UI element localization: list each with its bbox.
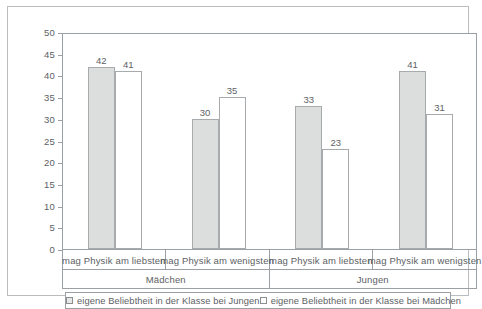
bar-value-label-series0-cat2: 33 <box>289 95 328 105</box>
y-tick-label-5: 5 <box>50 223 55 233</box>
y-tick-label-50: 50 <box>44 28 55 38</box>
y-axis: 05101520253035404550 <box>22 33 62 251</box>
y-tick-label-10: 10 <box>44 202 55 212</box>
category-axis: mag Physik am liebstenmag Physik am weni… <box>62 250 477 270</box>
bar-series0-cat1 <box>192 119 219 249</box>
chart-legend: eigene Beliebtheit in der Klasse bei Jun… <box>65 292 451 309</box>
y-tick-label-40: 40 <box>44 71 55 81</box>
bar-value-label-series0-cat3: 41 <box>393 60 432 70</box>
bar-series0-cat2 <box>295 106 322 249</box>
legend-item-0: eigene Beliebtheit in der Klasse bei Jun… <box>66 296 260 306</box>
category-label-1: mag Physik am wenigsten <box>166 250 270 270</box>
y-tick-label-35: 35 <box>44 93 55 103</box>
y-tick-label-0: 0 <box>50 245 55 255</box>
plot-inner: 4241303533234131 <box>63 34 476 249</box>
plot-area: 4241303533234131 <box>62 33 477 250</box>
category-label-0: mag Physik am liebsten <box>62 250 166 270</box>
y-tick-label-20: 20 <box>44 158 55 168</box>
category-label-2: mag Physik am liebsten <box>270 250 374 270</box>
bar-series1-cat0 <box>115 71 142 249</box>
scan-frame: 05101520253035404550 4241303533234131 ma… <box>7 6 469 296</box>
bar-series0-cat3 <box>399 71 426 249</box>
bar-value-label-series1-cat1: 35 <box>213 86 252 96</box>
bar-series1-cat2 <box>322 149 349 249</box>
bar-series1-cat3 <box>426 114 453 249</box>
legend-label-1: eigene Beliebtheit in der Klasse bei Mäd… <box>271 296 461 306</box>
bar-chart: 05101520253035404550 4241303533234131 ma… <box>22 19 474 298</box>
legend-swatch-icon-0 <box>66 297 73 304</box>
bar-series1-cat1 <box>219 97 246 249</box>
y-tick-label-15: 15 <box>44 180 55 190</box>
group-label-1: Jungen <box>270 270 478 289</box>
bar-series0-cat0 <box>88 67 115 249</box>
legend-label-0: eigene Beliebtheit in der Klasse bei Jun… <box>77 296 260 306</box>
category-label-3: mag Physik am wenigsten <box>373 250 477 270</box>
y-tick-label-25: 25 <box>44 137 55 147</box>
group-axis: MädchenJungen <box>62 270 477 289</box>
legend-item-1: eigene Beliebtheit in der Klasse bei Mäd… <box>260 296 461 306</box>
group-label-0: Mädchen <box>62 270 270 289</box>
y-tick-label-30: 30 <box>44 115 55 125</box>
legend-swatch-icon-1 <box>260 297 267 304</box>
y-tick-label-45: 45 <box>44 50 55 60</box>
